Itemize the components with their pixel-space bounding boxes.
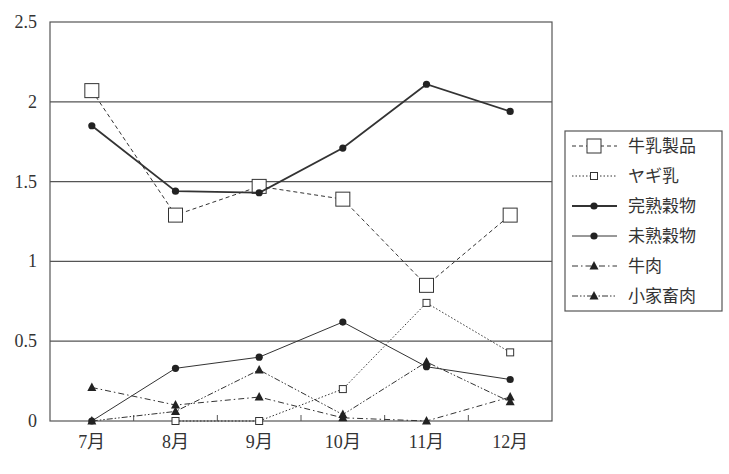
- series-3: [88, 81, 514, 197]
- square-marker-icon: [420, 278, 434, 292]
- legend-label: 完熟穀物: [628, 196, 696, 216]
- triangle-marker-icon: [87, 382, 96, 391]
- series-line: [92, 362, 510, 421]
- series-line: [92, 84, 510, 193]
- triangle-marker-icon: [255, 392, 264, 401]
- legend-box: [565, 131, 722, 311]
- x-tick-label: 12月: [492, 432, 528, 452]
- plot-frame: [50, 22, 552, 421]
- y-tick-label: 1.5: [15, 172, 38, 192]
- gridlines: [50, 22, 552, 421]
- legend-label: ヤギ乳: [628, 166, 679, 186]
- triangle-marker-icon: [422, 357, 431, 366]
- x-tick-label: 8月: [162, 432, 189, 452]
- small-square-marker-icon: [172, 418, 179, 425]
- x-tick-label: 11月: [409, 432, 444, 452]
- y-tick-label: 2: [28, 92, 37, 112]
- small-square-marker-icon: [256, 418, 263, 425]
- small-square-marker-icon: [339, 386, 346, 393]
- x-tick-label: 9月: [246, 432, 273, 452]
- circle-marker-icon: [339, 318, 346, 325]
- legend: 牛乳製品ヤギ乳完熟穀物未熟穀物牛肉小家畜肉: [565, 131, 722, 311]
- legend-item: 牛乳製品: [572, 136, 696, 156]
- triangle-marker-icon: [255, 365, 264, 374]
- y-tick-label: 0.5: [15, 331, 38, 351]
- small-square-marker-icon: [507, 349, 514, 356]
- circle-marker-icon: [172, 365, 179, 372]
- y-tick-label: 2.5: [15, 12, 38, 32]
- circle-marker-icon: [339, 144, 346, 151]
- series-lines: [85, 81, 517, 425]
- legend-label: 牛乳製品: [628, 136, 696, 156]
- series-line: [92, 91, 510, 286]
- circle-marker-icon: [590, 202, 597, 209]
- series-4: [88, 318, 514, 424]
- circle-marker-icon: [256, 189, 263, 196]
- x-tick-label: 10月: [325, 432, 361, 452]
- line-chart: 00.511.522.5 7月8月9月10月11月12月 牛乳製品ヤギ乳完熟穀物…: [0, 0, 729, 474]
- series-6: [87, 357, 514, 425]
- circle-marker-icon: [88, 122, 95, 129]
- square-marker-icon: [503, 208, 517, 222]
- legend-label: 未熟穀物: [628, 226, 696, 246]
- square-marker-icon: [336, 192, 350, 206]
- y-tick-label: 0: [28, 411, 37, 431]
- circle-marker-icon: [423, 81, 430, 88]
- square-marker-icon: [85, 84, 99, 98]
- circle-marker-icon: [256, 354, 263, 361]
- small-square-marker-icon: [423, 299, 430, 306]
- circle-marker-icon: [172, 188, 179, 195]
- legend-label: 小家畜肉: [628, 286, 696, 306]
- x-tick-label: 7月: [78, 432, 105, 452]
- y-axis: 00.511.522.5: [15, 12, 38, 431]
- circle-marker-icon: [590, 232, 597, 239]
- circle-marker-icon: [507, 108, 514, 115]
- small-square-marker-icon: [591, 173, 598, 180]
- triangle-marker-icon: [338, 410, 347, 419]
- legend-label: 牛肉: [628, 256, 662, 276]
- y-tick-label: 1: [28, 251, 37, 271]
- square-marker-icon: [169, 208, 183, 222]
- circle-marker-icon: [507, 376, 514, 383]
- square-marker-icon: [587, 139, 601, 153]
